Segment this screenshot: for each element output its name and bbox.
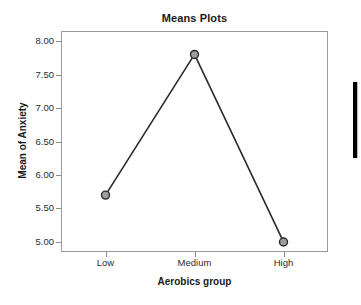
- y-tick-label-text: 5.00: [20, 236, 54, 247]
- right-edge-bar: [352, 82, 358, 158]
- y-axis-tick-labels: 8.007.507.006.506.005.505.00: [18, 0, 54, 305]
- x-tick-label: Low: [66, 257, 146, 268]
- y-tick-label: 7.50: [18, 69, 54, 81]
- y-tick-label: 7.00: [18, 102, 54, 114]
- x-tick-label: Medium: [155, 257, 235, 268]
- y-tick-label-text: 5.50: [20, 202, 54, 213]
- means-plot-figure: Means Plots Mean of Anxiety 8.007.507.00…: [0, 0, 361, 305]
- data-point-marker: [191, 50, 199, 58]
- data-point-marker: [102, 191, 110, 199]
- y-tick-label-text: 8.00: [20, 35, 54, 46]
- x-axis-title: Aerobics group: [61, 276, 328, 287]
- y-tick-label-text: 6.50: [20, 136, 54, 147]
- series-markers: [102, 50, 288, 246]
- y-tick-label: 5.00: [18, 236, 54, 248]
- y-tick-label-text: 7.50: [20, 69, 54, 80]
- y-tick-label: 6.50: [18, 136, 54, 148]
- y-tick-label: 5.50: [18, 202, 54, 214]
- x-tick-mark: [195, 252, 196, 257]
- chart-title: Means Plots: [61, 12, 328, 24]
- y-tick-label-text: 7.00: [20, 102, 54, 113]
- x-tick-mark: [106, 252, 107, 257]
- data-point-marker: [280, 238, 288, 246]
- plot-series-layer: [61, 31, 328, 252]
- y-tick-label: 8.00: [18, 35, 54, 47]
- x-tick-label: High: [244, 257, 324, 268]
- y-tick-label: 6.00: [18, 169, 54, 181]
- y-tick-label-text: 6.00: [20, 169, 54, 180]
- x-tick-mark: [284, 252, 285, 257]
- series-line: [106, 54, 284, 242]
